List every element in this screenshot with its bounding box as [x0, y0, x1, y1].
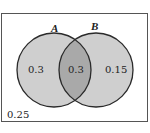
region-b-only-value: 0.15: [105, 64, 127, 75]
region-outside-value: 0.25: [7, 109, 29, 120]
region-intersection-value: 0.3: [68, 64, 84, 75]
venn-diagram: A B 0.3 0.3 0.15 0.25: [0, 0, 150, 133]
region-a-only-value: 0.3: [28, 64, 44, 75]
set-a-label: A: [50, 22, 58, 34]
set-b-label: B: [90, 20, 98, 32]
